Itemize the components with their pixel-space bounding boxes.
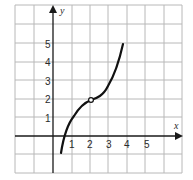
x-axis-label: x (173, 120, 179, 131)
y-axis-label: y (59, 5, 65, 16)
x-tick-label: 5 (144, 139, 150, 150)
grid (15, 5, 182, 173)
x-tick-label: 2 (87, 139, 93, 150)
x-tick-label: 1 (69, 139, 75, 150)
y-tick-label: 1 (45, 113, 51, 124)
y-tick-label: 4 (45, 57, 51, 68)
open-circle-point (89, 98, 94, 103)
x-tick-label: 4 (124, 139, 130, 150)
y-axis-arrow-icon (49, 5, 57, 13)
y-tick-label: 2 (45, 94, 51, 105)
function-graph: x y 1 2 3 4 5 1 2 3 4 5 (0, 0, 193, 180)
x-tick-label: 3 (106, 139, 112, 150)
y-tick-label: 5 (45, 39, 51, 50)
y-tick-label: 3 (45, 76, 51, 87)
